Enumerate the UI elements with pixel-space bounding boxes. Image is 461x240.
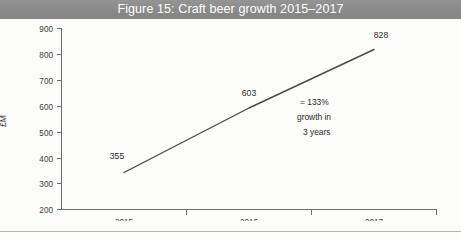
x-tick-labels: 2015 2016 2017 [115, 218, 384, 221]
data-label-2015: 355 [110, 151, 125, 161]
data-label-2016: 603 [242, 88, 257, 98]
figure-container: Figure 15: Craft beer growth 2015–2017 £… [0, 0, 461, 240]
y-tick-marks [57, 29, 62, 210]
x-tick-label: 2016 [240, 218, 259, 221]
growth-annotation: = 133% growth in 3 years [297, 97, 331, 137]
x-tick-label: 2017 [365, 218, 384, 221]
annotation-line-1: = 133% [300, 97, 329, 107]
annotation-line-2: growth in [297, 112, 331, 122]
y-tick-label: 900 [39, 25, 53, 34]
y-tick-labels: 900 800 700 600 500 400 300 200 [39, 25, 53, 215]
figure-title: Figure 15: Craft beer growth 2015–2017 [0, 1, 461, 18]
y-tick-label: 500 [39, 129, 53, 138]
data-label-2017: 828 [374, 30, 389, 40]
plot-area: 900 800 700 600 500 400 300 200 2015 201… [0, 19, 461, 221]
y-tick-label: 700 [39, 77, 53, 86]
data-series-line [124, 50, 374, 173]
figure-bottom-rule [0, 231, 461, 232]
y-tick-label: 800 [39, 51, 53, 60]
y-tick-label: 300 [39, 180, 53, 189]
figure-title-bar: Figure 15: Craft beer growth 2015–2017 [0, 0, 461, 19]
y-tick-label: 200 [39, 206, 53, 215]
x-tick-marks [187, 210, 437, 216]
annotation-line-3: 3 years [303, 127, 330, 137]
y-tick-label: 400 [39, 155, 53, 164]
x-tick-label: 2015 [115, 218, 134, 221]
y-tick-label: 600 [39, 103, 53, 112]
